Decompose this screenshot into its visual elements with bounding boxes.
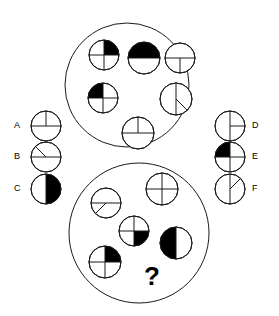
filled-sector-lower-half — [128, 42, 160, 58]
puzzle-illustration: ? ABC DEF — [0, 0, 279, 316]
top-fig-2 — [128, 42, 160, 74]
puzzle-canvas: ? ABC DEF — [0, 0, 279, 316]
bottom-fig-4 — [160, 227, 192, 259]
option-e-label: E — [252, 151, 258, 161]
bottom-fig-3 — [119, 216, 149, 246]
option-d[interactable]: D — [215, 111, 259, 141]
option-f-figure — [215, 174, 245, 204]
option-c-label: C — [14, 183, 21, 193]
right-options-layer: DEF — [215, 111, 259, 204]
option-b-label: B — [14, 151, 20, 161]
option-d-figure — [215, 111, 245, 141]
top-fig-1 — [89, 40, 119, 70]
group-figures-layer — [88, 40, 195, 278]
option-e[interactable]: E — [215, 142, 258, 172]
option-b-figure — [31, 142, 61, 172]
option-b[interactable]: B — [14, 142, 61, 172]
top-fig-6 — [122, 117, 154, 149]
top-fig-5 — [160, 83, 192, 115]
option-a[interactable]: A — [14, 111, 61, 141]
filled-sector-right-half — [46, 174, 61, 204]
option-c[interactable]: C — [14, 174, 61, 204]
option-a-figure — [31, 111, 61, 141]
option-c-figure — [31, 174, 61, 204]
left-options-layer: ABC — [14, 111, 61, 204]
bottom-fig-1 — [91, 188, 121, 218]
option-f-label: F — [252, 183, 258, 193]
top-fig-3 — [165, 43, 195, 73]
option-a-label: A — [14, 120, 20, 130]
question-mark: ? — [144, 261, 160, 291]
bottom-fig-2 — [146, 173, 178, 205]
option-e-figure — [215, 142, 245, 172]
option-f[interactable]: F — [215, 174, 258, 204]
filled-sector-left-half — [160, 227, 176, 259]
top-fig-4 — [88, 83, 118, 113]
option-d-label: D — [252, 120, 259, 130]
bottom-fig-5 — [89, 246, 121, 278]
question-mark-layer: ? — [144, 261, 160, 291]
